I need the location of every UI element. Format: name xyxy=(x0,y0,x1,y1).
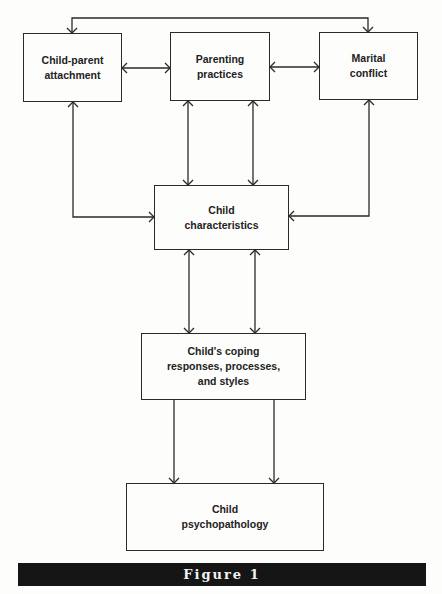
edge-attachment-marital xyxy=(72,18,368,33)
node-characteristics: Child characteristics xyxy=(154,185,289,250)
node-attachment: Child-parent attachment xyxy=(23,33,122,102)
node-psychopathology: Child psychopathology xyxy=(126,483,324,551)
edge-attachment-characteristics xyxy=(73,102,154,217)
caption-text: Figure 1 xyxy=(183,567,260,582)
node-label: Parenting practices xyxy=(196,52,244,82)
node-parenting: Parenting practices xyxy=(170,32,270,101)
node-label: Child psychopathology xyxy=(182,502,269,532)
node-marital: Marital conflict xyxy=(319,32,418,100)
node-label: Marital conflict xyxy=(350,51,387,81)
figure-caption: Figure 1 xyxy=(18,563,426,586)
node-label: Child characteristics xyxy=(184,203,258,233)
node-coping: Child's coping responses, processes, and… xyxy=(141,333,306,400)
node-label: Child's coping responses, processes, and… xyxy=(167,344,280,389)
edge-marital-characteristics xyxy=(289,100,369,216)
node-label: Child-parent attachment xyxy=(42,53,104,83)
